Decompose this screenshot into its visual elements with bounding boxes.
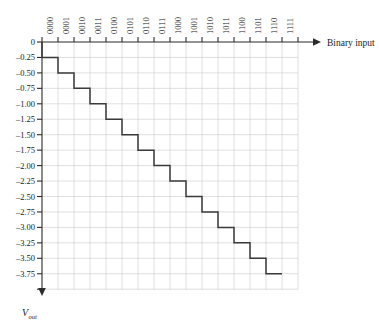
x-axis-tick-label: 1000 [173, 17, 183, 34]
x-axis-title: Binary input [327, 38, 375, 48]
x-axis-tick-label: 1100 [237, 17, 247, 34]
y-axis-tick-label: –2.25 [15, 176, 35, 186]
y-axis-tick-label: –3.00 [15, 222, 35, 232]
y-axis-arrow-icon [38, 288, 46, 296]
y-axis-tick-labels: 0–0.25–0.50–0.75–1.00–1.25–1.50–1.75–2.0… [15, 37, 35, 279]
y-axis-tick-label: –3.75 [15, 269, 35, 279]
y-axis-tick-label: –1.50 [15, 130, 35, 140]
y-axis-tick-label: –3.50 [15, 253, 35, 263]
x-axis-tick-label: 1111 [285, 18, 295, 34]
x-axis-tick-label: 0111 [157, 18, 167, 34]
y-axis-tick-label: –0.25 [15, 52, 35, 62]
x-axis-tick-labels: 0000000100100011010001010110011110001001… [45, 17, 295, 34]
x-axis-tick-label: 0010 [77, 17, 87, 34]
y-axis-tick-label: –2.00 [15, 161, 35, 171]
y-axis-tick-label: –3.25 [15, 238, 35, 248]
dac-transfer-chart: 0–0.25–0.50–0.75–1.00–1.25–1.50–1.75–2.0… [0, 0, 379, 330]
y-axis-tick-label: –1.25 [15, 114, 35, 124]
staircase-series [42, 42, 282, 274]
y-axis-tick-label: 0 [31, 37, 35, 47]
x-axis-ticks [42, 37, 298, 42]
y-axis-title-sub: out [29, 313, 38, 320]
y-axis-tick-label: –1.00 [15, 99, 35, 109]
x-axis-tick-label: 1010 [205, 17, 215, 34]
x-axis-tick-label: 0001 [61, 17, 71, 34]
x-axis-tick-label: 1001 [189, 17, 199, 34]
y-axis-tick-label: –0.50 [15, 68, 35, 78]
x-axis-tick-label: 1101 [253, 17, 263, 34]
y-axis-tick-label: –2.75 [15, 207, 35, 217]
y-axis-tick-label: –1.75 [15, 145, 35, 155]
y-axis-tick-label: –0.75 [15, 83, 35, 93]
x-axis-tick-label: 0000 [45, 17, 55, 34]
y-axis-tick-label: –2.50 [15, 192, 35, 202]
chart-svg: 0–0.25–0.50–0.75–1.00–1.25–1.50–1.75–2.0… [0, 0, 379, 330]
x-axis-tick-label: 0011 [93, 17, 103, 34]
x-axis-tick-label: 0101 [125, 17, 135, 34]
x-axis-tick-label: 1011 [221, 17, 231, 34]
x-axis-tick-label: 1110 [269, 18, 279, 34]
y-axis-ticks [37, 42, 42, 289]
x-axis-tick-label: 0110 [141, 17, 151, 34]
y-axis-title: Vout [22, 307, 37, 320]
x-axis-arrow-icon [313, 38, 321, 46]
x-axis-tick-label: 0100 [109, 17, 119, 34]
